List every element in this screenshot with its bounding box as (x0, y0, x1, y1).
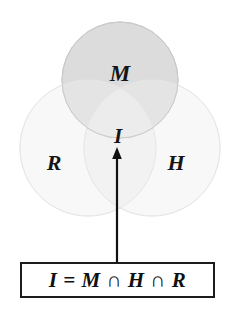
formula-text: I = M ∩ H ∩ R (49, 270, 186, 291)
set-label-i: I (100, 126, 136, 147)
set-label-m: M (96, 62, 144, 85)
formula-box: I = M ∩ H ∩ R (20, 262, 215, 298)
set-label-h: H (156, 152, 196, 174)
venn-diagram-figure: M I R H I = M ∩ H ∩ R (0, 0, 232, 312)
set-label-r: R (34, 152, 74, 174)
